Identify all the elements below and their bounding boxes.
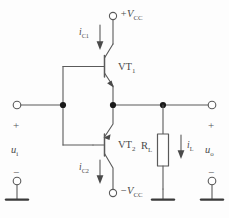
ground-middle [152,189,174,200]
schematic-canvas [0,0,229,218]
current-arrow-ic1 [97,25,104,50]
positive-supply-label: +VCC [120,9,143,22]
input-minus-sign: − [13,167,19,178]
load-resistor-branch [158,105,169,189]
negative-supply-terminal [109,189,116,196]
output-terminal-negative [208,177,216,185]
circuit-diagram: +VCC iC1 VT1 VT2 iC2 −VCC RL iL + ui − +… [0,0,229,218]
output-signal-label: uo [205,145,214,158]
output-terminal-positive [208,101,216,109]
ground-right [201,177,223,199]
transistor-label-vt1: VT1 [118,62,135,75]
current-arrow-il [178,135,185,159]
input-terminal-positive [13,101,21,109]
input-signal-label: ui [11,145,18,158]
current-label-ic2: iC2 [79,163,89,174]
input-plus-sign: + [13,120,19,131]
resistor-body [158,134,169,166]
input-terminal-negative [13,177,21,185]
input-base-bus [63,67,93,146]
current-label-il: iL [187,141,193,152]
output-minus-sign: − [208,167,214,178]
emitter-junction-node [110,102,116,108]
transistor-vt2 [93,105,113,189]
resistor-label: RL [141,141,152,154]
output-plus-sign: + [208,120,214,131]
current-arrow-ic2 [97,160,104,184]
current-label-ic1: iC1 [79,28,89,39]
negative-supply-label: −VCC [120,186,143,199]
transistor-label-vt2: VT2 [118,140,135,153]
input-junction-node [60,102,66,108]
positive-supply-terminal [109,12,116,19]
ground-left [6,177,28,199]
transistor-vt1 [93,44,114,105]
